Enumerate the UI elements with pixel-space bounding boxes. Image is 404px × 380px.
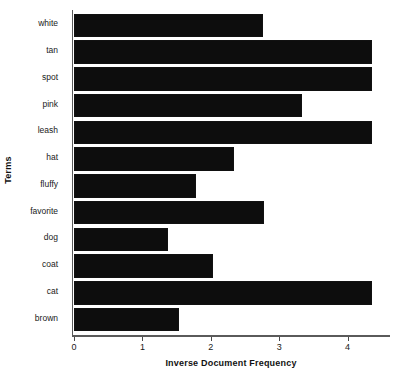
y-axis-tick-label: white — [16, 17, 66, 29]
x-axis-tick-label: 3 — [269, 342, 289, 352]
bar — [74, 281, 372, 305]
y-axis-tick-label: coat — [16, 258, 66, 270]
x-axis-tick-mark — [211, 337, 212, 341]
x-axis-tick-label: 1 — [132, 342, 152, 352]
y-axis-tick-label: brown — [16, 312, 66, 324]
bar — [74, 121, 372, 145]
bar — [74, 94, 302, 118]
plot-area — [72, 10, 390, 335]
x-axis-tick-mark — [74, 337, 75, 341]
bar — [74, 254, 213, 278]
bar — [74, 14, 263, 38]
x-axis-tick-label: 2 — [201, 342, 221, 352]
y-axis-tick-label: favorite — [16, 205, 66, 217]
y-axis-title-text: Terms — [3, 156, 13, 183]
x-axis-tick-mark — [348, 337, 349, 341]
bar — [74, 40, 372, 64]
x-axis-tick-label: 4 — [338, 342, 358, 352]
y-axis-tick-label: leash — [16, 124, 66, 136]
bar — [74, 228, 168, 252]
y-axis-tick-label: cat — [16, 285, 66, 297]
bar — [74, 147, 234, 171]
bar — [74, 308, 179, 332]
bar-series — [74, 12, 390, 333]
y-axis-tick-label: tan — [16, 44, 66, 56]
y-axis-tick-label: spot — [16, 71, 66, 83]
y-axis-line — [72, 10, 73, 335]
bar — [74, 201, 264, 225]
y-axis-tick-label: fluffy — [16, 178, 66, 190]
bar — [74, 174, 196, 198]
x-axis-title: Inverse Document Frequency — [72, 358, 390, 368]
y-axis-tick-labels: whitetanspotpinkleashhatfluffyfavoritedo… — [16, 12, 66, 333]
x-axis-tick-labels: 01234 — [72, 337, 390, 355]
y-axis-tick-label: dog — [16, 231, 66, 243]
x-axis-tick-label: 0 — [64, 342, 84, 352]
bar — [74, 67, 372, 91]
y-axis-tick-label: hat — [16, 151, 66, 163]
x-axis-tick-mark — [142, 337, 143, 341]
bar-chart-figure: Terms whitetanspotpinkleashhatfluffyfavo… — [0, 0, 404, 380]
x-axis-tick-mark — [279, 337, 280, 341]
y-axis-title: Terms — [0, 0, 16, 340]
y-axis-tick-label: pink — [16, 98, 66, 110]
